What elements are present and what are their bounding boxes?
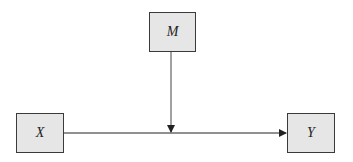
node-x-predictor: X bbox=[16, 113, 64, 153]
node-y-label: Y bbox=[307, 125, 315, 141]
node-x-label: X bbox=[36, 125, 45, 141]
node-y-outcome: Y bbox=[287, 113, 335, 153]
node-m-moderator: M bbox=[149, 12, 196, 52]
node-m-label: M bbox=[167, 24, 179, 40]
